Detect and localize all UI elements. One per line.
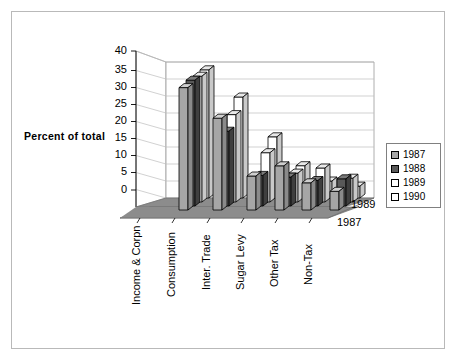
x-axis-ticks [137, 218, 312, 223]
bar-non-tax-1987 [330, 187, 344, 210]
y-tick-35: 35 [101, 63, 127, 75]
legend-swatch-1990 [391, 193, 399, 201]
y-tick-10: 10 [101, 148, 127, 160]
y-axis [131, 51, 136, 207]
z-label-1987: 1987 [337, 216, 361, 228]
bar-other-tax-1987 [302, 179, 316, 210]
y-tick-40: 40 [101, 44, 127, 56]
x-label-other-tax: Other Tax [268, 240, 280, 288]
legend-label-1987: 1987 [403, 150, 425, 160]
legend-swatch-1988 [391, 165, 399, 173]
z-label-1989: 1989 [351, 198, 375, 210]
x-label-consumption: Consumption [165, 232, 177, 297]
x-label-inter-trade: Inter. Trade [200, 234, 212, 290]
legend-item-1988[interactable]: 1988 [391, 162, 437, 175]
bar-inter-trade-1987 [247, 172, 261, 210]
y-tick-30: 30 [101, 80, 127, 92]
x-label-non-tax: Non-Tax [302, 244, 314, 285]
y-tick-25: 25 [101, 97, 127, 109]
legend-label-1990: 1990 [403, 192, 425, 202]
y-axis-title: Percent of total [24, 130, 105, 142]
x-label-sugar-levy: Sugar Levy [234, 234, 246, 290]
chart-screenshot: 40 35 30 25 20 15 10 5 0 Percent of tota… [0, 0, 457, 364]
legend-item-1989[interactable]: 1989 [391, 176, 437, 189]
bar-income-corpn-1987 [179, 84, 193, 210]
legend-label-1988: 1988 [403, 164, 425, 174]
bar-sugar-levy-1987 [275, 162, 289, 210]
chart-legend: 1987 1988 1989 1990 [386, 143, 441, 208]
y-tick-0: 0 [101, 183, 127, 195]
bar-consumption-1987 [213, 114, 227, 210]
legend-item-1987[interactable]: 1987 [391, 148, 437, 161]
legend-label-1989: 1989 [403, 178, 425, 188]
chart-plot-area: 40 35 30 25 20 15 10 5 0 Percent of tota… [0, 0, 457, 364]
legend-swatch-1987 [391, 151, 399, 159]
legend-swatch-1989 [391, 179, 399, 187]
y-tick-20: 20 [101, 114, 127, 126]
y-tick-5: 5 [101, 165, 127, 177]
x-label-income-corpn: Income & Corpn [130, 226, 142, 305]
legend-item-1990[interactable]: 1990 [391, 190, 437, 203]
